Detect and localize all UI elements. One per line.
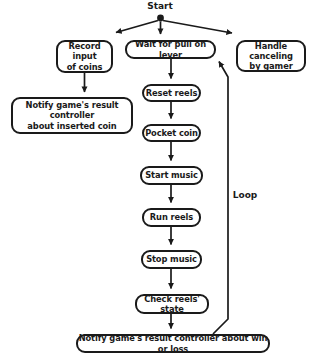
node-pocket-coin[interactable]: Pocket coin [142,124,201,142]
start-label: Start [128,1,192,11]
node-start-music[interactable]: Start music [140,166,203,185]
start-node-dot [157,15,164,22]
node-reset-reels[interactable]: Reset reels [142,84,201,102]
node-check-reels-state[interactable]: Check reels' state [135,294,209,314]
node-record-input[interactable]: Record inputof coins [56,40,113,73]
node-stop-music[interactable]: Stop music [141,250,202,269]
node-wait-for-pull-on-lever[interactable]: Wait for pull on lever [125,40,216,59]
loop-label: Loop [226,190,264,200]
edge-start-to-handle-cancel [163,21,232,34]
node-run-reels[interactable]: Run reels [142,208,201,227]
node-notify-about-win-or-loss[interactable]: Notify game's result controller about wi… [76,334,270,353]
node-handle-canceling-by-gamer[interactable]: Handle cancelingby gamer [236,40,306,72]
edge-start-to-record-input [116,21,158,33]
node-notify-about-inserted-coin[interactable]: Notify game's result controllerabout ins… [11,97,133,134]
flowchart-diagram: Start Loop Record inputof coins Wait for… [0,0,312,358]
